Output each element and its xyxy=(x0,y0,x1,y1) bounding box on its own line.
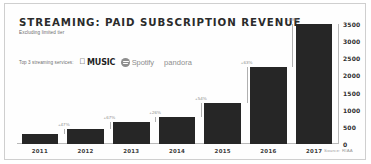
y-axis-line xyxy=(338,24,339,144)
growth-leader-2012 xyxy=(110,122,111,129)
x-tick-2012: 2012 xyxy=(77,148,93,154)
bar-2016 xyxy=(250,67,287,144)
growth-leader-2015 xyxy=(247,67,248,103)
y-tick-3000: 3000 xyxy=(343,38,361,45)
growth-label-2015: +63% xyxy=(241,60,253,65)
growth-leader-2014 xyxy=(201,103,202,117)
growth-label-2011: +47% xyxy=(58,122,70,127)
y-tick-2000: 2000 xyxy=(343,72,361,79)
bar-2015 xyxy=(204,103,241,144)
bar-chart-plot: 2011201220132014201520162017050010001500… xyxy=(17,24,337,144)
bar-2013 xyxy=(113,122,150,144)
y-tick-500: 500 xyxy=(343,123,356,130)
growth-leader-2016 xyxy=(292,24,293,67)
chart-screenshot: STREAMING: PAID SUBSCRIPTION REVENUE Exc… xyxy=(0,0,371,164)
y-tick-1500: 1500 xyxy=(343,89,361,96)
bar-2012 xyxy=(67,129,104,144)
growth-leader-2013 xyxy=(155,117,156,122)
source-note: Source: RIAA xyxy=(324,148,353,153)
x-tick-2017: 2017 xyxy=(306,148,322,154)
y-tick-3500: 3500 xyxy=(343,21,361,28)
growth-label-2016: +59% xyxy=(286,17,298,22)
y-tick-0: 0 xyxy=(343,141,347,148)
x-tick-2014: 2014 xyxy=(169,148,185,154)
growth-label-2014: +54% xyxy=(195,96,207,101)
growth-label-2012: +67% xyxy=(104,115,116,120)
y-tick-2500: 2500 xyxy=(343,55,361,62)
bar-2014 xyxy=(159,117,196,144)
x-tick-2013: 2013 xyxy=(123,148,139,154)
x-tick-2015: 2015 xyxy=(215,148,231,154)
growth-leader-2011 xyxy=(64,129,65,134)
x-tick-2011: 2011 xyxy=(32,148,48,154)
growth-label-2013: +26% xyxy=(149,110,161,115)
x-tick-2016: 2016 xyxy=(260,148,276,154)
bar-2011 xyxy=(22,134,59,144)
chart-card: STREAMING: PAID SUBSCRIPTION REVENUE Exc… xyxy=(4,3,366,160)
y-tick-1000: 1000 xyxy=(343,106,361,113)
bar-2017 xyxy=(296,24,333,144)
